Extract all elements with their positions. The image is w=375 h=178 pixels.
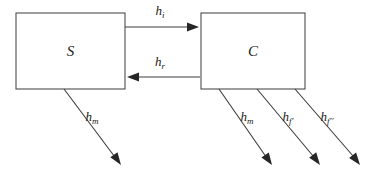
edge-label-h-f-double-prime: hf'' <box>321 109 335 126</box>
edge-label-h-i-sub: i <box>162 10 165 20</box>
diagram-svg: S C hi hr hm hm hf' hf'' <box>0 0 375 178</box>
edge-label-h-i: hi <box>155 3 165 20</box>
edge-label-h-f-double-prime-sub: f'' <box>327 116 334 126</box>
edge-label-h-m-c: hm <box>241 109 255 126</box>
arrowhead-h-f-double-prime <box>349 152 360 165</box>
node-label-s: S <box>67 43 75 59</box>
arrowhead-h-i <box>187 23 199 32</box>
edge-label-h-r-sub: r <box>161 61 165 71</box>
diagram-canvas: S C hi hr hm hm hf' hf'' <box>0 0 375 178</box>
arrowhead-h-r <box>127 73 139 82</box>
edge-label-h-m-s: hm <box>86 109 100 126</box>
arrowhead-h-m-s <box>110 152 121 165</box>
node-label-c: C <box>248 43 259 59</box>
arrowhead-h-m-c <box>261 153 272 166</box>
arrowhead-h-f-prime <box>309 152 320 165</box>
edge-label-h-f-prime-sub: f' <box>289 116 295 126</box>
edge-label-h-f-prime: hf' <box>283 109 295 126</box>
edge-label-h-r: hr <box>155 54 166 71</box>
edge-label-h-m-s-sub: m <box>92 116 99 126</box>
edge-label-h-m-c-sub: m <box>247 116 254 126</box>
